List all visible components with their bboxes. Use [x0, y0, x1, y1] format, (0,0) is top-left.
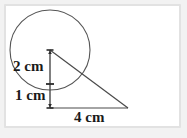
dimension-label-2cm: 2 cm [13, 59, 43, 74]
dimension-label-1cm: 1 cm [15, 88, 45, 103]
geometry-figure-screenshot: 2 cm 1 cm 4 cm [0, 0, 187, 138]
dimension-arrow-bottom [48, 104, 52, 108]
dimension-label-4cm: 4 cm [74, 110, 104, 125]
